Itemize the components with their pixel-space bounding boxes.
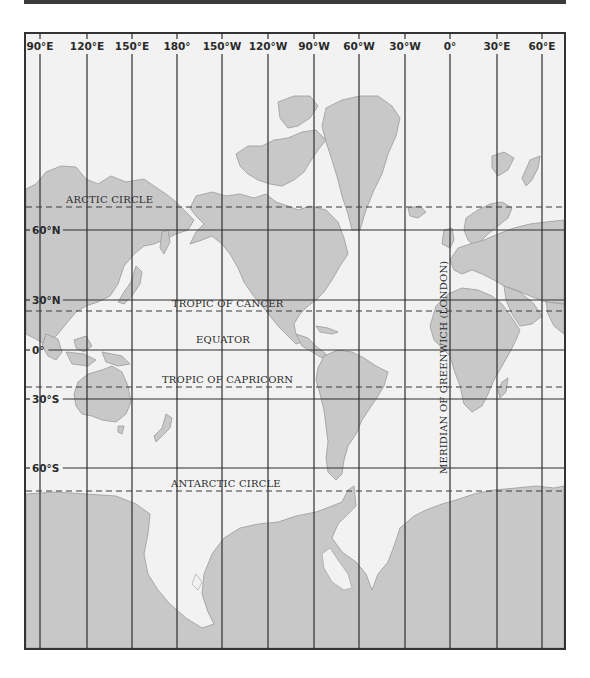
latitude-label: 30°S [32,393,59,405]
map-frame: 90°E120°E150°E180°150°W120°W90°W60°W30°W… [24,32,566,650]
longitude-label: 150°E [115,40,149,52]
longitude-label: 30°E [483,40,510,52]
circle-label: TROPIC OF CANCER [172,298,284,309]
longitude-label: 120°W [249,40,288,52]
circle-label: ANTARCTIC CIRCLE [170,478,281,489]
longitude-label: 150°W [203,40,242,52]
world-map: 90°E120°E150°E180°150°W120°W90°W60°W30°W… [26,34,564,648]
latitude-label: 60°S [32,462,59,474]
longitude-label: 60°W [343,40,375,52]
longitude-label: 60°E [528,40,555,52]
latitude-label: 30°N [32,294,61,306]
prime-meridian-label: MERIDIAN OF GREENWICH (LONDON) [438,261,449,474]
circle-label: TROPIC OF CAPRICORN [162,374,293,385]
top-bar [24,0,566,4]
longitude-label: 180° [163,40,190,52]
longitude-label: 30°W [389,40,421,52]
circle-label: EQUATOR [196,334,250,345]
longitude-label: 0° [444,40,457,52]
latitude-label: 0° [32,344,45,356]
longitude-label: 90°W [298,40,330,52]
longitude-label: 120°E [70,40,104,52]
circle-label: ARCTIC CIRCLE [65,194,153,205]
longitude-label: 90°E [26,40,53,52]
latitude-label: 60°N [32,224,61,236]
